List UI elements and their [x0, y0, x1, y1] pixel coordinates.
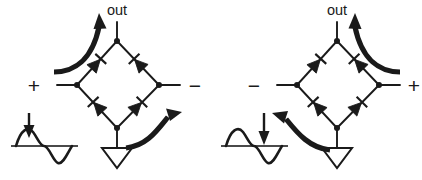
node-right-left-panel: [156, 82, 162, 88]
panel-left: out + −: [11, 2, 201, 168]
panel-right: out − +: [221, 2, 420, 168]
bridge-left: [57, 22, 180, 148]
rectifier-figure: out + −: [0, 0, 422, 180]
left-terminal-label-left-panel: +: [28, 74, 40, 97]
node-bottom-right-panel: [334, 125, 340, 131]
waveform-marker-arrow-right: [259, 113, 270, 145]
ground-symbol-left: [102, 148, 132, 168]
node-left-right-panel: [294, 82, 300, 88]
waveform-marker-arrow-left: [24, 113, 35, 138]
node-left-left-panel: [74, 82, 80, 88]
node-top-left-panel: [114, 38, 120, 44]
current-arrow-return-right: [272, 111, 330, 150]
input-waveform-right: [221, 113, 288, 163]
circuit-diagram-svg: out + −: [0, 0, 422, 180]
left-terminal-label-right-panel: −: [248, 74, 260, 97]
node-top-right-panel: [334, 38, 340, 44]
node-bottom-left-panel: [114, 125, 120, 131]
right-terminal-label-left-panel: −: [189, 74, 201, 97]
node-right-right-panel: [376, 82, 382, 88]
input-waveform-left: [11, 113, 78, 163]
current-arrow-return-left: [126, 109, 182, 149]
out-label-right: out: [327, 2, 347, 18]
right-terminal-label-right-panel: +: [408, 74, 420, 97]
out-label-left: out: [107, 2, 127, 18]
